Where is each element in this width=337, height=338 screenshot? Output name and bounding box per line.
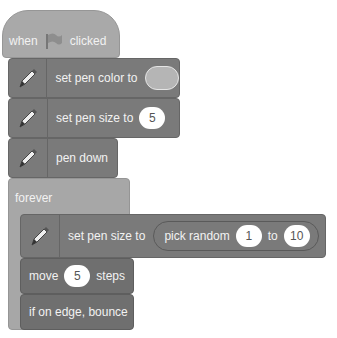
- clicked-label: clicked: [70, 34, 107, 48]
- pen-icon: [16, 66, 40, 90]
- pen-size-input[interactable]: 5: [139, 107, 165, 129]
- pen-extension-icon-cell: [9, 59, 47, 97]
- set-pen-color-label: set pen color to: [55, 71, 137, 85]
- random-from-input[interactable]: 1: [236, 225, 262, 247]
- move-steps-block[interactable]: move 5 steps: [20, 258, 134, 294]
- when-label: when: [9, 34, 38, 48]
- pen-extension-icon-cell: [9, 139, 48, 177]
- set-pen-color-block[interactable]: set pen color to: [8, 58, 180, 98]
- pen-icon: [16, 146, 40, 170]
- bounce-label: if on edge, bounce: [29, 305, 128, 319]
- if-on-edge-bounce-block[interactable]: if on edge, bounce: [20, 294, 134, 330]
- pick-random-reporter[interactable]: pick random 1 to 10: [153, 221, 318, 251]
- pen-color-swatch[interactable]: [145, 66, 179, 90]
- random-to-input[interactable]: 10: [284, 225, 310, 247]
- pen-extension-icon-cell: [21, 215, 60, 257]
- forever-label: forever: [15, 191, 52, 205]
- green-flag-icon: [44, 32, 64, 50]
- move-label: move: [29, 269, 58, 283]
- inner-set-pen-size-label: set pen size to: [68, 229, 145, 243]
- set-pen-size-label: set pen size to: [56, 111, 133, 125]
- pen-extension-icon-cell: [9, 99, 48, 137]
- pen-down-block[interactable]: pen down: [8, 138, 118, 178]
- pen-icon: [16, 106, 40, 130]
- pen-icon: [28, 224, 52, 248]
- inner-set-pen-size-block[interactable]: set pen size to pick random 1 to 10: [20, 214, 326, 258]
- pick-random-label: pick random: [164, 229, 229, 243]
- set-pen-size-block[interactable]: set pen size to 5: [8, 98, 180, 138]
- steps-input[interactable]: 5: [64, 265, 90, 287]
- to-label: to: [268, 229, 278, 243]
- pen-down-label: pen down: [56, 151, 108, 165]
- when-flag-clicked-block[interactable]: when clicked: [2, 10, 120, 58]
- steps-label: steps: [96, 269, 125, 283]
